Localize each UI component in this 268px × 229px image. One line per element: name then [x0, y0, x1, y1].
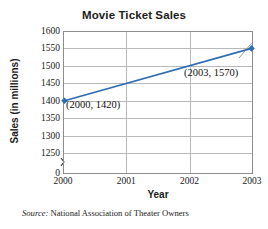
y-axis-tick-labels: 1600 1550 1500 1450 1400 1350 1300 1250 … — [13, 31, 60, 174]
x-tick-2001: 2001 — [102, 177, 150, 187]
y-tick-1350: 1350 — [16, 114, 60, 124]
y-tick-1400: 1400 — [16, 97, 60, 107]
annotation-2003-1570: (2003, 1570) — [184, 68, 238, 79]
x-axis-title: Year — [63, 189, 253, 200]
y-tick-1500: 1500 — [16, 62, 60, 72]
annotation-2000-1420: (2000, 1420) — [66, 100, 120, 111]
y-tick-1250: 1250 — [16, 149, 60, 159]
chart-title: Movie Ticket Sales — [0, 9, 268, 21]
y-tick-1300: 1300 — [16, 132, 60, 142]
x-tick-2003: 2003 — [228, 177, 268, 187]
y-tick-1600: 1600 — [16, 27, 60, 37]
source-organization: National Association of Theater Owners — [51, 208, 189, 218]
chart-figure: Movie Ticket Sales Sales (in millions) 1… — [0, 0, 268, 229]
y-tick-1450: 1450 — [16, 79, 60, 89]
source-note: Source: National Association of Theater … — [22, 208, 189, 218]
x-axis-tick-labels: 2000 2001 2002 2003 — [63, 177, 253, 189]
source-label: Source: — [22, 208, 48, 218]
x-tick-2000: 2000 — [39, 177, 87, 187]
y-tick-1550: 1550 — [16, 44, 60, 54]
x-tick-2002: 2002 — [166, 177, 214, 187]
